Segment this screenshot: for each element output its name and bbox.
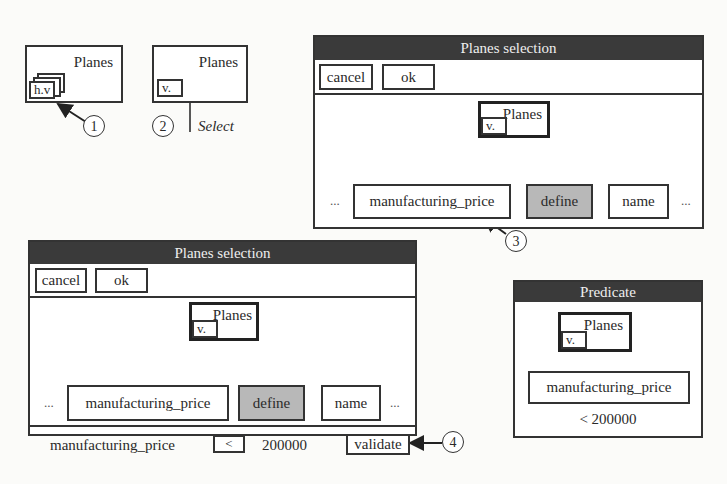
predicate-attribute-node: manufacturing_price bbox=[528, 371, 690, 404]
step-marker-1: 1 bbox=[83, 115, 105, 137]
variable-tag[interactable]: v. bbox=[481, 117, 507, 135]
validate-button[interactable]: validate bbox=[346, 434, 410, 455]
attribute-node-name[interactable]: name bbox=[321, 385, 381, 421]
planes-selection-window-bottom: Planes selection cancel ok Planes v. ...… bbox=[28, 240, 417, 436]
attribute-node-manufacturing-price[interactable]: manufacturing_price bbox=[67, 385, 229, 421]
divider bbox=[30, 296, 415, 298]
attribute-node-define[interactable]: define bbox=[526, 184, 593, 219]
variable-tag[interactable]: v. bbox=[192, 320, 218, 338]
planes-box-step2[interactable]: Planes v. bbox=[152, 45, 248, 103]
condition-attribute-label: manufacturing_price bbox=[50, 438, 175, 453]
right-ellipsis: ... bbox=[681, 193, 691, 209]
ok-button[interactable]: ok bbox=[382, 64, 435, 90]
step-marker-4: 4 bbox=[442, 431, 464, 453]
select-action-label: Select bbox=[198, 119, 234, 134]
variable-tag[interactable]: v. bbox=[157, 79, 183, 97]
root-node-planes: Planes v. bbox=[558, 312, 632, 352]
window-title: Planes selection bbox=[315, 37, 702, 60]
root-node-planes[interactable]: Planes v. bbox=[478, 101, 550, 138]
cancel-button[interactable]: cancel bbox=[35, 268, 87, 293]
root-node-label: Planes bbox=[503, 107, 542, 122]
step-marker-3: 3 bbox=[505, 230, 527, 252]
step-marker-2: 2 bbox=[152, 115, 174, 137]
attribute-node-name[interactable]: name bbox=[608, 184, 669, 219]
root-node-label: Planes bbox=[584, 318, 623, 333]
operator-selector[interactable]: < bbox=[213, 435, 245, 453]
left-ellipsis: ... bbox=[44, 395, 54, 411]
divider bbox=[315, 93, 702, 95]
planes-box-step1[interactable]: Planes h.v bbox=[25, 45, 123, 103]
right-ellipsis: ... bbox=[390, 395, 400, 411]
left-ellipsis: ... bbox=[330, 193, 340, 209]
cancel-button[interactable]: cancel bbox=[319, 64, 373, 90]
window-title: Predicate bbox=[515, 282, 701, 302]
predicate-window: Predicate Planes v. manufacturing_price … bbox=[513, 280, 703, 438]
condition-value-input[interactable]: 200000 bbox=[262, 438, 307, 453]
planes-selection-window-top: Planes selection cancel ok Planes v. ...… bbox=[313, 35, 704, 229]
ok-button[interactable]: ok bbox=[95, 268, 148, 293]
variable-tag[interactable]: h.v bbox=[29, 81, 55, 99]
root-node-label: Planes bbox=[213, 308, 252, 323]
planes-label: Planes bbox=[199, 55, 238, 70]
root-node-planes[interactable]: Planes v. bbox=[189, 302, 259, 341]
planes-label: Planes bbox=[74, 55, 113, 70]
window-title: Planes selection bbox=[30, 242, 415, 264]
attribute-node-define[interactable]: define bbox=[238, 385, 305, 421]
predicate-condition: < 200000 bbox=[515, 412, 701, 427]
divider bbox=[30, 425, 415, 427]
attribute-node-manufacturing-price[interactable]: manufacturing_price bbox=[353, 184, 511, 219]
variable-tag: v. bbox=[561, 331, 587, 349]
